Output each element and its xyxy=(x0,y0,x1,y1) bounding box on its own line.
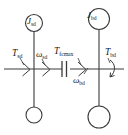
label-speed-left: ωsd xyxy=(36,50,47,59)
label-clutch-torque: Tfcmax xyxy=(54,47,73,57)
diagram-canvas xyxy=(0,0,128,135)
label-speed-left-subscript: sd xyxy=(42,54,47,60)
leader-line-torque-left xyxy=(20,58,24,65)
drivetrain-diagram: Jsd Jbd Tsd ωsd Tfcmax ωbd Tbd xyxy=(0,0,128,135)
label-torque-right-subscript: bd xyxy=(110,52,116,58)
label-inertia-left: Jsd xyxy=(27,17,36,26)
label-torque-right: Tbd xyxy=(105,48,116,58)
ground-node-left xyxy=(26,107,42,123)
leader-line-torque-right xyxy=(108,58,110,63)
ground-node-right xyxy=(88,106,110,128)
label-speed-right-subscript: bd xyxy=(79,80,84,86)
label-inertia-left-subscript: sd xyxy=(31,21,36,27)
label-torque-left: Tsd xyxy=(12,49,22,59)
label-clutch-torque-subscript: fcmax xyxy=(59,51,73,57)
label-inertia-right: Jbd xyxy=(87,11,96,20)
label-speed-right: ωbd xyxy=(73,76,85,85)
label-inertia-right-subscript: bd xyxy=(91,15,96,21)
label-torque-left-subscript: sd xyxy=(17,53,22,59)
